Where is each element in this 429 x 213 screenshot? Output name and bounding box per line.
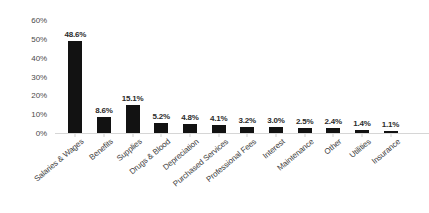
bar-value-label: 2.4%	[325, 117, 342, 126]
bar-slot: 4.1%	[204, 20, 233, 133]
bar-slot: 4.8%	[176, 20, 205, 133]
bar-value-label: 3.0%	[267, 116, 284, 125]
bar[interactable]	[183, 124, 197, 133]
y-axis-tick-label: 50%	[31, 34, 47, 43]
bar-slot: 48.6%	[61, 20, 90, 133]
y-axis: 60%50%40%30%20%10%0%	[0, 0, 55, 213]
bar-value-label: 1.4%	[353, 119, 370, 128]
bar[interactable]	[212, 125, 226, 133]
bar[interactable]	[68, 41, 82, 133]
bar-slot: 1.4%	[348, 20, 377, 133]
plot-area: 48.6%8.6%15.1%5.2%4.8%4.1%3.2%3.0%2.5%2.…	[55, 20, 429, 133]
bar-slot: 1.1%	[376, 20, 405, 133]
bar-slot: 15.1%	[118, 20, 147, 133]
x-axis-category-label: Professional Fees	[205, 137, 259, 184]
bar-value-label: 4.8%	[181, 113, 198, 122]
bar[interactable]	[97, 117, 111, 133]
y-axis-tick-label: 30%	[31, 72, 47, 81]
bar-slot: 2.4%	[319, 20, 348, 133]
bar-value-label: 4.1%	[210, 114, 227, 123]
bar-value-label: 2.5%	[296, 117, 313, 126]
bar-slot: 5.2%	[147, 20, 176, 133]
bar[interactable]	[126, 105, 140, 133]
bar-value-label: 1.1%	[382, 120, 399, 129]
bar[interactable]	[154, 123, 168, 133]
bar-value-label: 48.6%	[64, 30, 86, 39]
y-axis-tick-label: 0%	[36, 129, 47, 138]
x-axis-category-label: Other	[323, 137, 344, 156]
x-axis-category-label: Benefits	[88, 137, 115, 162]
y-axis-tick-label: 20%	[31, 91, 47, 100]
bar-slot: 2.5%	[290, 20, 319, 133]
bar-value-label: 15.1%	[122, 94, 144, 103]
x-axis-category-label: Interest	[261, 137, 287, 161]
bar-chart: 60%50%40%30%20%10%0% 48.6%8.6%15.1%5.2%4…	[0, 0, 429, 213]
bar-slot: 3.2%	[233, 20, 262, 133]
x-axis-category-label: Insurance	[370, 137, 402, 166]
y-axis-tick-label: 10%	[31, 110, 47, 119]
x-axis-category-label: Utilities	[348, 137, 373, 160]
y-axis-tick-label: 60%	[31, 16, 47, 25]
bar-value-label: 5.2%	[153, 112, 170, 121]
x-axis-category-labels: Salaries & WagesBenefitsSuppliesDrugs & …	[55, 133, 429, 213]
bar-slot: 3.0%	[262, 20, 291, 133]
bar-value-label: 8.6%	[95, 106, 112, 115]
bar-value-label: 3.2%	[239, 116, 256, 125]
y-axis-tick-label: 40%	[31, 53, 47, 62]
bar-slot: 8.6%	[90, 20, 119, 133]
